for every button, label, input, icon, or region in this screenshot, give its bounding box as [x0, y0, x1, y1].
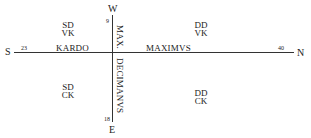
label-maximvs: MAXIMVS [146, 44, 191, 53]
quadrant-bottom-left: SD CK [58, 83, 78, 99]
quadrant-bottom-right: DD CK [191, 89, 211, 105]
direction-south: S [5, 47, 11, 57]
label-kardo: KARDO [56, 44, 89, 53]
quadrant-top-right-line2: VK [191, 29, 211, 37]
direction-west: W [108, 4, 117, 14]
decumanus-maximus-line [112, 15, 113, 122]
quadrant-top-left-line2: VK [58, 29, 78, 37]
quadrant-bottom-left-line2: CK [58, 91, 78, 99]
quadrant-top-left: SD VK [58, 21, 78, 37]
label-decimanvs: DECIMANVS [115, 58, 124, 113]
quadrant-bottom-right-line2: CK [191, 97, 211, 105]
number-18: 18 [104, 116, 110, 122]
quadrant-top-right: DD VK [191, 21, 211, 37]
label-max: MAX. [115, 25, 124, 49]
number-23: 23 [21, 45, 27, 51]
number-40: 40 [278, 45, 284, 51]
number-9: 9 [106, 18, 109, 24]
direction-east: E [109, 125, 115, 135]
direction-north: N [297, 48, 304, 58]
